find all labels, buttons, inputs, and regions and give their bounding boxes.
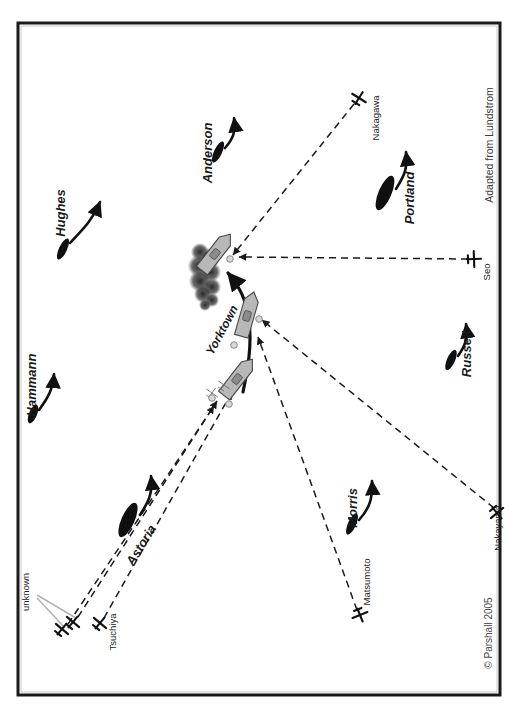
bomb-hit-marker-0 bbox=[227, 256, 234, 263]
battle-map-canvas bbox=[0, 0, 518, 726]
bomb-hit-marker-1 bbox=[256, 316, 263, 323]
aircraft-label-tsuchiya-1: Tsuchiya bbox=[107, 614, 118, 651]
copyright-note: © Parshall 2005 bbox=[483, 597, 494, 668]
ship-label-hughes: Hughes bbox=[53, 189, 68, 237]
aircraft-label-matsumoto-1: Matsumoto bbox=[361, 559, 372, 606]
ship-label-anderson: Anderson bbox=[200, 123, 215, 184]
bomb-hit-marker-4 bbox=[209, 395, 216, 402]
diagram-stage: HughesAndersonHammannAstoriaPortlandRuss… bbox=[0, 0, 518, 726]
ship-label-portland: Portland bbox=[402, 172, 417, 225]
bomb-hit-marker-3 bbox=[226, 401, 233, 408]
aircraft-label-nakagawa-1: Nakagawa bbox=[370, 96, 381, 141]
aircraft-label-nakayama-1: Nakayama bbox=[492, 505, 503, 550]
ship-label-hammann: Hammann bbox=[24, 354, 39, 417]
ship-label-morris: Morris bbox=[345, 488, 360, 528]
attribution-note: Adapted from Lundstrom bbox=[483, 87, 495, 203]
smoke-blob-8 bbox=[199, 299, 211, 311]
aircraft-label-unknown-1: unknown bbox=[20, 573, 31, 611]
map-border bbox=[18, 23, 500, 695]
ship-label-russell: Russell bbox=[459, 331, 474, 377]
aircraft-label-seo-1: Seo bbox=[481, 264, 492, 281]
bomb-hit-marker-2 bbox=[231, 342, 238, 349]
